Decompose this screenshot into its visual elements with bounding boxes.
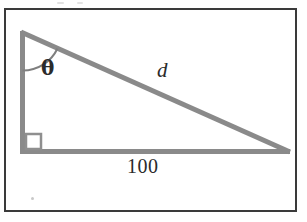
- triangle-diagram: [0, 0, 307, 222]
- scan-speck: [77, 2, 83, 4]
- right-angle-marker: [26, 134, 41, 149]
- angle-label-theta: θ: [41, 58, 54, 78]
- hypotenuse-line: [21, 32, 290, 152]
- scan-speck: [57, 2, 64, 4]
- figure-root: θ d 100: [0, 0, 307, 222]
- hypotenuse-label-d: d: [157, 60, 168, 81]
- scan-speck: [31, 197, 34, 200]
- base-length-label: 100: [127, 156, 159, 176]
